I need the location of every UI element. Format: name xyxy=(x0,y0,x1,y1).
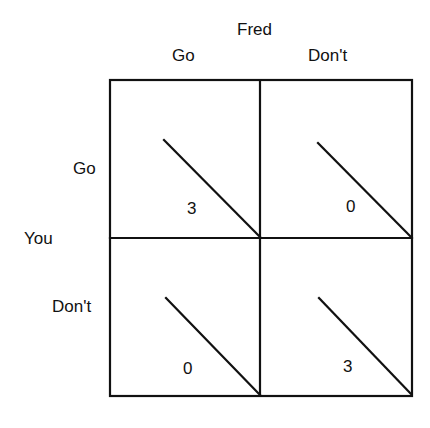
payoff-dont-dont: 3 xyxy=(343,358,352,375)
payoff-dont-go: 0 xyxy=(183,360,192,377)
diagonal-bottom-left xyxy=(166,298,260,395)
payoff-go-go: 3 xyxy=(187,200,196,217)
payoff-grid xyxy=(0,0,430,428)
payoff-go-dont: 0 xyxy=(346,198,355,215)
diagonal-top-right xyxy=(318,143,411,237)
diagonal-bottom-right xyxy=(319,298,411,394)
diagonal-top-left xyxy=(164,140,260,237)
